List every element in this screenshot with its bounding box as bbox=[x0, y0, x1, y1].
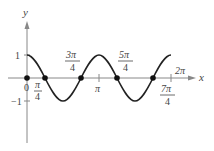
x-tick-label-pi4-den: 4 bbox=[35, 91, 40, 102]
x-axis-label: x bbox=[198, 71, 204, 83]
y-axis-label: y bbox=[22, 6, 28, 18]
point-7pi4 bbox=[150, 75, 156, 81]
point-pi4 bbox=[42, 75, 48, 81]
x-tick-label-7pi4-num: 7π bbox=[161, 83, 172, 94]
x-tick-label-pi4-num: π bbox=[35, 79, 41, 90]
y-axis-arrow-icon bbox=[25, 21, 30, 29]
point-5pi4 bbox=[114, 75, 120, 81]
x-tick-label-5pi4-den: 4 bbox=[123, 62, 128, 73]
x-tick-label-pi: π bbox=[95, 83, 101, 94]
x-tick-label-5pi4-num: 5π bbox=[119, 49, 130, 60]
x-tick-label-3pi4-den: 4 bbox=[70, 62, 75, 73]
x-axis-arrow-icon bbox=[188, 76, 196, 81]
x-tick-label-7pi4-den: 4 bbox=[165, 96, 170, 107]
point-0 bbox=[24, 75, 30, 81]
y-tick-label-neg1: −1 bbox=[11, 96, 22, 107]
y-tick-label-1: 1 bbox=[15, 50, 20, 61]
x-tick-label-2pi: 2π bbox=[175, 65, 186, 76]
x-tick-label-0: 0 bbox=[24, 82, 29, 93]
point-3pi4 bbox=[78, 75, 84, 81]
x-tick-label-3pi4-num: 3π bbox=[65, 49, 77, 60]
chart: y x 1 −1 0 π 2π π 4 3π 4 5π 4 7π 4 bbox=[0, 0, 214, 151]
